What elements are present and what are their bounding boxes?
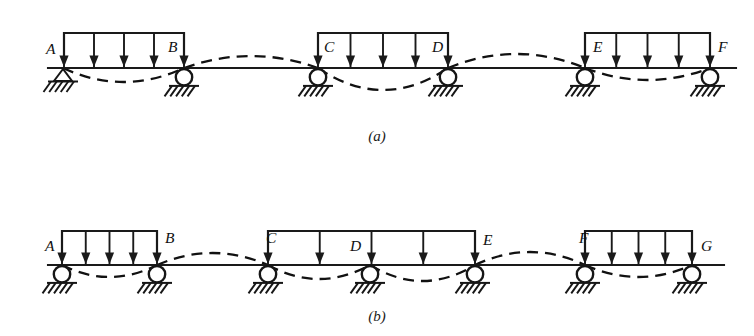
deflection-curve-a-0 bbox=[63, 68, 184, 82]
load-arrow-head-b-1-1 bbox=[315, 253, 324, 265]
caption-b: (b) bbox=[347, 308, 407, 325]
deflection-curve-a-3 bbox=[448, 54, 585, 68]
load-arrow-head-b-0-3 bbox=[129, 253, 138, 265]
support-roller-b-F bbox=[577, 266, 593, 282]
load-arrow-head-a-2-3 bbox=[674, 56, 683, 68]
support-roller-b-C bbox=[260, 266, 276, 282]
node-label-b-E: E bbox=[482, 231, 493, 248]
load-arrow-head-a-1-1 bbox=[346, 56, 355, 68]
support-roller-a-B bbox=[176, 69, 192, 85]
support-roller-b-A bbox=[54, 266, 70, 282]
deflection-curve-b-3 bbox=[370, 265, 475, 281]
deflection-curve-a-4 bbox=[585, 68, 710, 80]
load-arrow-head-b-2-3 bbox=[661, 253, 670, 265]
load-arrow-head-a-1-2 bbox=[378, 56, 387, 68]
beam-diagrams-svg: ABCDEFABCDEFG bbox=[0, 0, 754, 336]
load-arrow-head-a-1-0 bbox=[313, 56, 322, 68]
load-arrow-head-b-0-2 bbox=[105, 253, 114, 265]
load-arrow-head-a-2-4 bbox=[705, 56, 714, 68]
node-label-b-F: F bbox=[578, 229, 589, 246]
support-roller-b-D bbox=[362, 266, 378, 282]
support-roller-b-B bbox=[149, 266, 165, 282]
support-roller-a-E bbox=[577, 69, 593, 85]
load-arrow-head-b-1-0 bbox=[263, 253, 272, 265]
caption-a: (a) bbox=[347, 128, 407, 145]
support-roller-a-D bbox=[440, 69, 456, 85]
load-arrow-head-b-0-1 bbox=[81, 253, 90, 265]
load-arrow-head-a-0-2 bbox=[119, 56, 128, 68]
load-arrow-head-b-2-4 bbox=[687, 253, 696, 265]
load-arrow-head-b-1-2 bbox=[367, 253, 376, 265]
node-label-a-C: C bbox=[324, 38, 335, 55]
diagram-b: ABCDEFG bbox=[43, 229, 725, 293]
support-roller-a-F bbox=[702, 69, 718, 85]
node-label-a-E: E bbox=[592, 38, 603, 55]
node-label-a-F: F bbox=[717, 38, 728, 55]
node-label-b-D: D bbox=[349, 237, 361, 254]
node-label-b-B: B bbox=[165, 229, 175, 246]
load-arrow-head-a-0-1 bbox=[89, 56, 98, 68]
node-label-b-A: A bbox=[44, 237, 55, 254]
deflection-curve-a-2 bbox=[318, 68, 448, 90]
load-arrow-head-a-1-3 bbox=[411, 56, 420, 68]
load-arrow-head-b-1-3 bbox=[419, 253, 428, 265]
node-label-b-G: G bbox=[701, 237, 712, 254]
node-label-a-A: A bbox=[45, 40, 56, 57]
deflection-curve-a-1 bbox=[184, 56, 318, 68]
deflection-curve-b-4 bbox=[475, 252, 585, 265]
load-arrow-head-a-0-0 bbox=[59, 56, 68, 68]
load-arrow-head-a-2-0 bbox=[580, 56, 589, 68]
deflection-curve-b-0 bbox=[62, 265, 157, 277]
load-arrow-head-a-0-4 bbox=[179, 56, 188, 68]
deflection-curve-b-1 bbox=[157, 253, 268, 265]
load-arrow-head-b-2-2 bbox=[634, 253, 643, 265]
load-arrow-head-a-0-3 bbox=[149, 56, 158, 68]
support-roller-b-E bbox=[467, 266, 483, 282]
load-arrow-head-a-2-2 bbox=[643, 56, 652, 68]
load-arrow-head-a-2-1 bbox=[612, 56, 621, 68]
load-arrow-head-a-1-4 bbox=[443, 56, 452, 68]
support-roller-b-G bbox=[684, 266, 700, 282]
figure-canvas: ABCDEFABCDEFG (a) (b) bbox=[0, 0, 754, 336]
load-arrow-head-b-2-1 bbox=[607, 253, 616, 265]
diagram-a: ABCDEF bbox=[44, 33, 737, 96]
load-arrow-head-b-0-4 bbox=[152, 253, 161, 265]
node-label-a-B: B bbox=[168, 38, 178, 55]
node-label-b-C: C bbox=[266, 229, 277, 246]
node-label-a-D: D bbox=[431, 38, 443, 55]
deflection-curve-b-5 bbox=[585, 265, 692, 277]
support-roller-a-C bbox=[310, 69, 326, 85]
load-arrow-head-b-0-0 bbox=[57, 253, 66, 265]
deflection-curve-b-2 bbox=[268, 265, 370, 279]
